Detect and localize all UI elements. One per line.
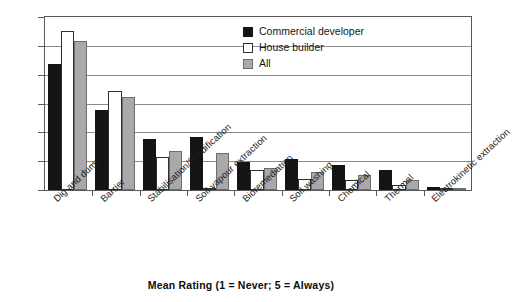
x-tick-mark [140,191,141,196]
x-tick-mark [92,191,93,196]
legend-label-commercial-developer: Commercial developer [259,26,364,37]
y-tick-mark [38,132,44,133]
x-tick-mark [329,191,330,196]
y-tick-mark [38,104,44,105]
chart-legend: Commercial developer House builder All [243,24,364,72]
legend-label-house-builder: House builder [259,42,324,53]
y-tick-mark [38,190,44,191]
x-tick-mark [282,191,283,196]
legend-item-house-builder: House builder [243,40,364,55]
axis-title: Mean Rating (1 = Never; 5 = Always) [0,279,482,291]
y-tick-mark [38,75,44,76]
bar-group [379,17,419,190]
bar [143,139,156,190]
y-tick-mark [38,17,44,18]
bar [332,165,345,190]
x-tick-mark [376,191,377,196]
legend-item-all: All [243,56,364,71]
legend-label-all: All [259,58,271,69]
bar [108,91,121,190]
bar-group [427,17,467,190]
legend-swatch-icon-house-builder [243,43,253,53]
bar [95,110,108,190]
bar-group [143,17,183,190]
y-tick-mark [38,46,44,47]
bar-group [190,17,230,190]
legend-item-commercial-developer: Commercial developer [243,24,364,39]
bar [61,31,74,190]
bar [48,64,61,190]
legend-swatch-icon-commercial-developer [243,27,253,37]
x-tick-mark [234,191,235,196]
bar-group [48,17,88,190]
bar [453,188,466,190]
legend-swatch-icon-all [243,59,253,69]
bar [122,97,135,190]
x-tick-mark [424,191,425,196]
y-tick-mark [38,161,44,162]
x-tick-mark [187,191,188,196]
